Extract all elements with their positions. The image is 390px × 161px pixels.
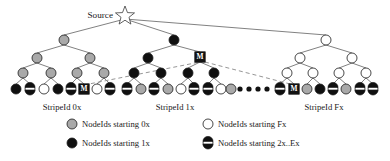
node-l3-stripe-1x-0: [129, 68, 139, 78]
stripe-labels: StripeId 0xStripeId 1xStripeId Fx: [43, 102, 344, 112]
node-mbox: M: [289, 84, 300, 95]
node-leaf-stripe-1x-4: [176, 84, 186, 94]
node-leaf-stripe-0x-2: [39, 84, 49, 94]
node-leaf-stripe-1x-2: [149, 82, 159, 95]
legend-marker-legend-2x: [203, 136, 213, 149]
legend-text-legend-0x: NodeIds starting 0x: [82, 119, 150, 129]
node-l3-stripe-1x-1: [156, 68, 166, 78]
node-l3-stripe-0x-2: [72, 68, 82, 78]
node-l3-stripe-Fx-3: [361, 68, 371, 78]
node-leaf-stripe-0x-3: [53, 84, 63, 94]
node-l2-stripe-Fx-0: [295, 53, 305, 63]
node-leaf-stripe-1x-7: [216, 84, 226, 94]
ellipsis-dot: [255, 86, 260, 91]
node-leaf-stripe-1x-1: [136, 84, 146, 94]
node-leaf-stripe-0x-7: [105, 82, 115, 95]
legend: NodeIds starting 0xNodeIds starting FxNo…: [67, 119, 300, 149]
node-leaf-stripe-Fx-3: [315, 84, 325, 94]
node-leaf-stripe-Fx-0: [275, 82, 285, 95]
node-l2-stripe-1x-0: [143, 53, 153, 63]
mbox-label: M: [197, 52, 204, 61]
legend-text-legend-1x: NodeIds starting 1x: [82, 138, 150, 148]
stripe-label-stripe-Fx: StripeId Fx: [305, 102, 345, 112]
legend-marker-legend-Fx: [203, 119, 213, 129]
node-leaf-stripe-1x-6: [203, 82, 213, 95]
node-l2-stripe-0x-0: [32, 53, 42, 63]
node-leaf-stripe-1x-3: [163, 84, 173, 94]
stripe-label-stripe-0x: StripeId 0x: [43, 102, 82, 112]
node-leaf-stripe-1x-0: [122, 82, 132, 95]
stripe-label-stripe-1x: StripeId 1x: [156, 102, 195, 112]
node-mbox: M: [79, 84, 90, 95]
node-leaf-stripe-Fx-2: [302, 84, 312, 94]
source-label: Source: [87, 10, 113, 20]
ellipsis-group: [237, 86, 269, 91]
legend-text-legend-Fx: NodeIds starting Fx: [218, 119, 287, 129]
node-l3-stripe-0x-3: [99, 68, 109, 78]
node-l2-stripe-Fx-1: [347, 53, 357, 63]
mbox-label: M: [81, 84, 88, 93]
node-leaf-stripe-Fx-5: [341, 84, 351, 94]
legend-marker-legend-0x: [67, 119, 77, 129]
node-leaf-stripe-Fx-4: [328, 82, 338, 95]
node-leaf-stripe-Fx-7: [368, 82, 378, 95]
node-root-stripe-0x: [59, 35, 69, 45]
legend-marker-legend-1x: [67, 138, 77, 148]
node-l2-stripe-0x-1: [85, 53, 95, 63]
source-group: Source: [87, 6, 134, 24]
ellipsis-dot: [237, 86, 242, 91]
node-leaf-stripe-1x-5: [189, 82, 199, 95]
ellipsis-dot: [246, 86, 251, 91]
node-leaf-stripe-0x-1: [25, 82, 35, 95]
node-l2-stripe-Fx-2: [226, 84, 236, 94]
node-l3-stripe-0x-1: [46, 68, 56, 78]
node-root-stripe-1x: [169, 35, 179, 45]
node-l3-stripe-Fx-0: [282, 68, 292, 78]
node-leaf-stripe-0x-4: [66, 82, 76, 95]
node-l3-stripe-Fx-1: [308, 68, 318, 78]
diagram-canvas: MMM Source StripeId 0xStripeId 1xStripeI…: [0, 0, 390, 161]
node-root-stripe-Fx: [321, 35, 331, 45]
mbox-label: M: [291, 84, 298, 93]
ellipsis-dot: [264, 86, 269, 91]
node-l3-stripe-Fx-2: [334, 68, 344, 78]
splitstream-diagram: MMM Source StripeId 0xStripeId 1xStripeI…: [0, 0, 390, 161]
legend-text-legend-2x: NodeIds starting 2x..Ex: [218, 138, 300, 148]
node-l3-stripe-0x-0: [18, 68, 28, 78]
node-l3-stripe-1x-2: [183, 68, 193, 78]
node-leaf-stripe-Fx-6: [355, 82, 365, 95]
node-l3-stripe-1x-3: [209, 68, 219, 78]
node-mbox: M: [195, 52, 206, 63]
node-leaf-stripe-0x-0: [11, 84, 21, 94]
node-leaf-stripe-0x-6: [92, 84, 102, 94]
